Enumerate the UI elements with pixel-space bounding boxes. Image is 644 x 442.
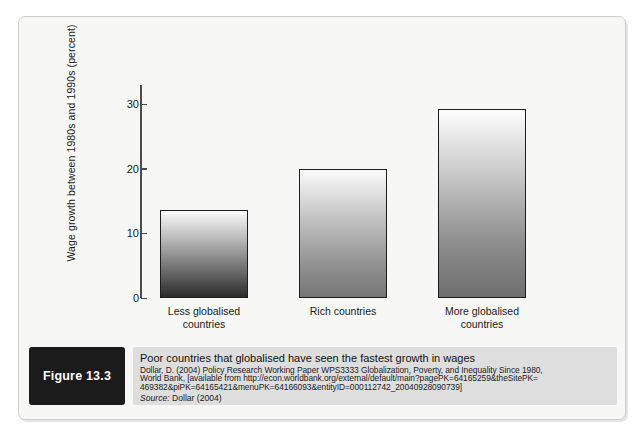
- bar: [438, 109, 526, 298]
- y-axis-tick-label: 30: [127, 98, 139, 110]
- figure-caption-body: Poor countries that globalised have seen…: [133, 347, 617, 405]
- x-axis-category-label: Less globalisedcountries: [134, 305, 274, 330]
- figure-panel: Wage growth between 1980s and 1990s (per…: [18, 16, 626, 420]
- y-axis-line: [140, 85, 142, 298]
- x-axis-category-label-line: More globalised: [412, 305, 552, 318]
- y-axis-tick-mark: [141, 298, 147, 300]
- y-axis-tick-mark: [141, 168, 147, 170]
- figure-number-label: Figure 13.3: [43, 369, 111, 383]
- figure-reference-line: 469382&piPK=64165421&menuPK=64166093&ent…: [140, 383, 610, 392]
- figure-source-line: Source: Dollar (2004): [140, 393, 610, 403]
- bar: [299, 169, 387, 298]
- y-axis-tick-label: 10: [127, 227, 139, 239]
- y-axis-tick: 20: [107, 163, 147, 175]
- x-axis-category-label: More globalisedcountries: [412, 305, 552, 330]
- x-axis-category-label: Rich countries: [273, 305, 413, 318]
- figure-caption-title: Poor countries that globalised have seen…: [140, 352, 610, 365]
- y-axis-tick-mark: [141, 104, 147, 106]
- x-axis-category-label-line: countries: [412, 318, 552, 331]
- figure-reference-block: Dollar, D. (2004) Policy Research Workin…: [140, 366, 610, 393]
- y-axis-title: Wage growth between 1980s and 1990s (per…: [65, 23, 77, 263]
- chart-plot-area: Wage growth between 1980s and 1990s (per…: [19, 17, 627, 335]
- x-axis-category-label-line: countries: [134, 318, 274, 331]
- y-axis-tick: 0: [107, 292, 147, 304]
- y-axis-tick-label: 0: [133, 292, 139, 304]
- y-axis-tick: 30: [107, 98, 147, 110]
- figure-number-badge: Figure 13.3: [29, 347, 125, 405]
- y-axis-tick: 10: [107, 227, 147, 239]
- figure-caption-strip: Figure 13.3 Poor countries that globalis…: [29, 347, 617, 409]
- figure-source-value: Dollar (2004): [172, 393, 222, 403]
- figure-source-prefix: Source:: [140, 393, 170, 403]
- y-axis-tick-label: 20: [127, 163, 139, 175]
- y-axis-tick-mark: [141, 233, 147, 235]
- bar: [160, 210, 248, 298]
- x-axis-category-label-line: Rich countries: [273, 305, 413, 318]
- x-axis-category-label-line: Less globalised: [134, 305, 274, 318]
